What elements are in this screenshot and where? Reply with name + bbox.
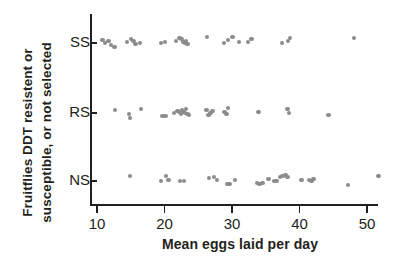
data-point bbox=[285, 175, 289, 179]
x-axis-tick-label-20: 20 bbox=[145, 215, 185, 232]
data-point bbox=[125, 40, 129, 44]
data-point bbox=[287, 111, 291, 115]
y-axis-tick-label-ss: SS bbox=[50, 34, 90, 50]
data-point bbox=[112, 45, 116, 49]
x-axis-tick-label-50: 50 bbox=[347, 215, 387, 232]
data-point bbox=[184, 107, 188, 111]
data-point bbox=[256, 110, 260, 114]
data-points-layer bbox=[90, 14, 400, 206]
data-point bbox=[249, 37, 253, 41]
data-point bbox=[226, 106, 230, 110]
data-point bbox=[207, 176, 211, 180]
data-point bbox=[226, 38, 230, 42]
x-axis-tick-30 bbox=[231, 206, 233, 213]
data-point bbox=[187, 113, 191, 117]
plot-area: 1020304050 bbox=[90, 14, 400, 206]
data-point bbox=[166, 178, 170, 182]
data-point bbox=[299, 178, 303, 182]
x-axis-tick-label-40: 40 bbox=[280, 215, 320, 232]
x-axis-tick-10 bbox=[96, 206, 98, 213]
data-point bbox=[233, 178, 237, 182]
data-point bbox=[260, 181, 264, 185]
data-point bbox=[159, 179, 163, 183]
data-point bbox=[164, 114, 168, 118]
data-point bbox=[138, 41, 142, 45]
data-point bbox=[275, 179, 279, 183]
data-point bbox=[185, 42, 189, 46]
data-point bbox=[280, 41, 284, 45]
data-point bbox=[288, 36, 292, 40]
x-axis-tick-50 bbox=[366, 206, 368, 213]
x-axis-title: Mean eggs laid per day bbox=[90, 236, 390, 252]
data-point bbox=[346, 183, 350, 187]
x-axis-tick-40 bbox=[299, 206, 301, 213]
data-point bbox=[237, 40, 241, 44]
data-point bbox=[376, 174, 380, 178]
y-axis-tick-label-ns: NS bbox=[50, 172, 90, 188]
data-point bbox=[205, 35, 209, 39]
x-axis-tick-label-30: 30 bbox=[212, 215, 252, 232]
data-point bbox=[139, 107, 143, 111]
data-point bbox=[133, 42, 137, 46]
y-axis-tick-label-rs: RS bbox=[50, 104, 90, 120]
data-point bbox=[311, 177, 315, 181]
data-point bbox=[128, 116, 132, 120]
data-point bbox=[222, 41, 226, 45]
data-point bbox=[163, 40, 167, 44]
x-axis-tick-label-10: 10 bbox=[77, 215, 117, 232]
data-point bbox=[215, 178, 219, 182]
data-point bbox=[266, 177, 270, 181]
data-point bbox=[230, 35, 234, 39]
data-point bbox=[352, 36, 356, 40]
x-axis-tick-20 bbox=[164, 206, 166, 213]
data-point bbox=[224, 112, 228, 116]
data-point bbox=[113, 108, 117, 112]
data-point bbox=[326, 113, 330, 117]
data-point bbox=[210, 109, 214, 113]
scatter-plot-figure: Fruitflies DDT resistent or susceptible,… bbox=[0, 0, 407, 265]
data-point bbox=[227, 182, 231, 186]
data-point bbox=[128, 174, 132, 178]
data-point bbox=[182, 179, 186, 183]
y-axis-title: Fruitflies DDT resistent or susceptible,… bbox=[0, 0, 46, 265]
